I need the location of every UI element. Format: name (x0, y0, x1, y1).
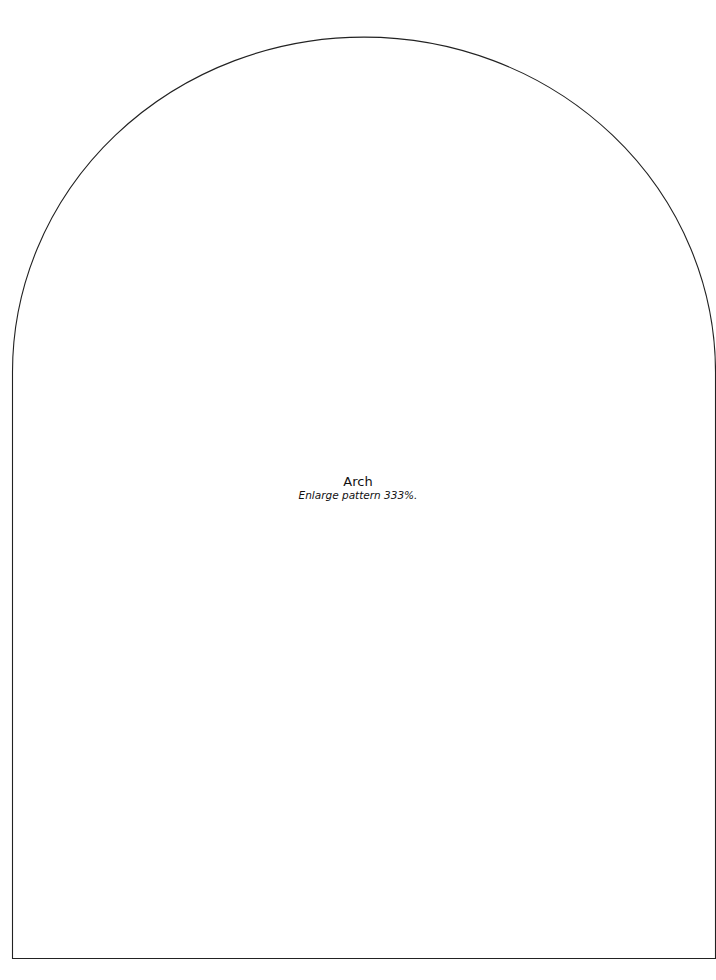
pattern-title: Arch (0, 474, 716, 489)
pattern-instruction: Enlarge pattern 333%. (0, 489, 716, 502)
pattern-label: Arch Enlarge pattern 333%. (0, 474, 716, 502)
